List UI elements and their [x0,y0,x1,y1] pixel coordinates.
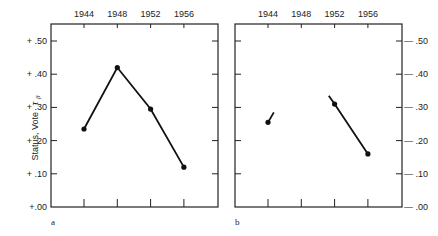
y-tick-label: — .00 [404,202,428,212]
panel-a: 1944194819521956+ .50+ .40+ .30+ .20+ .1… [27,9,218,212]
plot-frame [235,24,402,207]
y-axis-title-text: Status, Vote [30,112,40,161]
panel-b-label: b [235,217,240,227]
data-point-marker [148,106,153,111]
tau-symbol: τ [28,100,40,105]
y-tick-label: — .20 [404,136,428,146]
svg-text:Status, Vote τ β: Status, Vote τ β [28,95,42,161]
beta-subscript: β [34,95,42,100]
y-tick-label: + .10 [27,169,47,179]
x-tick-label: 1944 [258,9,278,19]
y-tick-label: +.00 [29,202,47,212]
y-tick-label: — .40 [404,69,428,79]
chart-figure: 1944194819521956+ .50+ .40+ .30+ .20+ .1… [0,0,438,236]
data-point-marker [332,101,337,106]
y-tick-label: — .50 [404,36,428,46]
x-tick-label: 1952 [141,9,161,19]
x-tick-label: 1952 [325,9,345,19]
panel-b: 1944194819521956— .50— .40— .30— .20— .1… [235,9,428,212]
y-tick-label: + .50 [27,36,47,46]
data-point-marker [365,151,370,156]
data-point-marker [115,65,120,70]
y-tick-label: — .30 [404,102,428,112]
panel-a-label: a [51,217,55,227]
x-tick-label: 1956 [174,9,194,19]
x-tick-label: 1948 [291,9,311,19]
data-point-marker [181,165,186,170]
y-axis-title: Status, Vote τ β [28,95,42,161]
y-tick-label: + .40 [27,69,47,79]
y-tick-label: — .10 [404,169,428,179]
data-point-marker [81,126,86,131]
x-tick-label: 1956 [358,9,378,19]
x-tick-label: 1948 [107,9,127,19]
x-tick-label: 1944 [74,9,94,19]
data-point-marker [265,120,270,125]
plot-frame [51,24,218,207]
data-line [84,68,184,168]
